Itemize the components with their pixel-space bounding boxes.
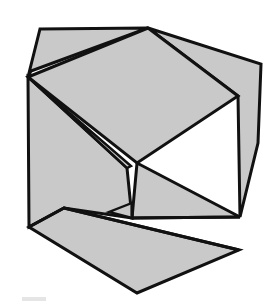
fold-line-lower-horizontal-edge xyxy=(132,217,240,218)
corner-smudge-mark xyxy=(22,297,46,301)
folded-paper-illustration xyxy=(0,0,273,308)
figure-container: Folded paper sheet Line drawing of a she… xyxy=(0,0,273,308)
